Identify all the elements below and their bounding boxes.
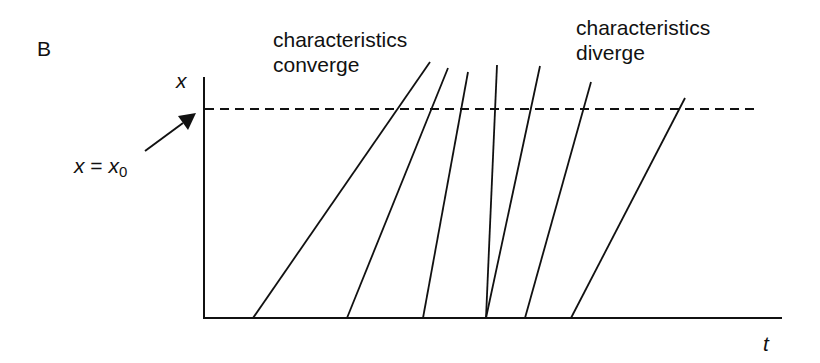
- panel-label: B: [37, 38, 51, 59]
- characteristic-line-4: [486, 65, 497, 318]
- x0-label-base: x: [108, 154, 119, 177]
- annotation-converge-line2: converge: [273, 52, 407, 77]
- characteristic-line-6: [525, 82, 591, 318]
- characteristic-line-1: [253, 62, 430, 318]
- horizontal-axis-label: t: [763, 333, 769, 354]
- vertical-axis-label: x: [176, 70, 187, 91]
- characteristic-line-5: [486, 66, 540, 318]
- x0-reference-label: x = x0: [74, 155, 127, 179]
- annotation-converge: characteristics converge: [273, 27, 407, 77]
- x0-label-var: x: [74, 154, 85, 177]
- characteristic-lines: [253, 62, 685, 318]
- characteristic-line-7: [571, 98, 685, 318]
- characteristics-diagram: B characteristics converge characteristi…: [0, 0, 820, 363]
- annotation-diverge-line2: diverge: [576, 40, 710, 65]
- x0-label-eq: =: [85, 154, 109, 177]
- arrowhead-icon: [178, 113, 196, 130]
- annotation-diverge: characteristics diverge: [576, 15, 710, 65]
- x0-pointer-arrow-icon: [145, 123, 183, 151]
- characteristic-line-2: [347, 68, 448, 318]
- x0-label-subscript: 0: [119, 163, 127, 180]
- annotation-diverge-line1: characteristics: [576, 15, 710, 40]
- annotation-converge-line1: characteristics: [273, 27, 407, 52]
